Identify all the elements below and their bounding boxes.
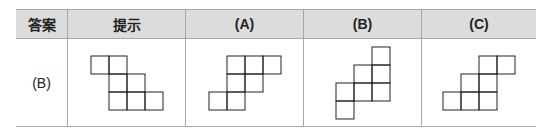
hint-net-figure xyxy=(90,55,164,111)
header-answer: 答案 xyxy=(16,10,68,39)
answer-table: 答案 提示 (A) (B) (C) (B) xyxy=(16,9,536,127)
option-c-figure xyxy=(422,39,537,127)
option-b-figure xyxy=(304,39,422,127)
option-b-net-figure xyxy=(335,46,391,120)
header-hint: 提示 xyxy=(68,10,186,39)
header-option-a: (A) xyxy=(186,10,304,39)
hint-figure xyxy=(68,39,186,127)
option-a-net-figure xyxy=(208,55,282,111)
header-option-c: (C) xyxy=(422,10,537,39)
option-a-figure xyxy=(186,39,304,127)
header-option-b: (B) xyxy=(304,10,422,39)
answer-value: (B) xyxy=(16,39,68,127)
option-c-net-figure xyxy=(442,55,516,111)
